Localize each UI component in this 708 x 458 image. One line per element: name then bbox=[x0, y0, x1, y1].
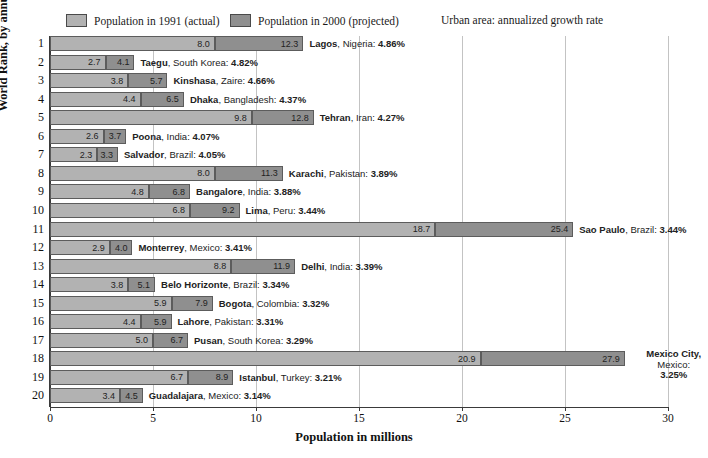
city-label: Lahore, Pakistan: 3.31% bbox=[178, 314, 284, 329]
x-tick-5 bbox=[153, 407, 154, 411]
growth-rate: 3.34% bbox=[262, 279, 289, 290]
population-growth-bar-chart: Population in 1991 (actual) Population i… bbox=[0, 0, 708, 458]
bar-value-2000: 3.7 bbox=[109, 132, 122, 141]
bar-row: 20.927.9 bbox=[50, 351, 625, 366]
rank-label: 11 bbox=[22, 222, 44, 237]
growth-rate: 3.44% bbox=[298, 205, 325, 216]
bar-value-2000: 8.9 bbox=[216, 373, 229, 382]
city-name: Sao Paulo bbox=[579, 224, 625, 235]
city-country: , Mexico: bbox=[203, 390, 244, 401]
city-label: Salvador, Brazil: 4.05% bbox=[124, 147, 225, 162]
x-tick-30 bbox=[668, 407, 669, 411]
bar-segment-2000: 3.7 bbox=[104, 129, 127, 144]
city-country: , South Korea: bbox=[223, 335, 286, 346]
growth-rate: 4.27% bbox=[378, 112, 405, 123]
bar-segment-1991: 4.8 bbox=[50, 184, 149, 199]
y-axis-title: World Rank, by annualized growth rate bbox=[0, 0, 11, 120]
rank-label: 6 bbox=[22, 129, 44, 144]
bar-value-2000: 9.2 bbox=[222, 206, 235, 215]
city-country: , Peru: bbox=[268, 205, 299, 216]
bar-segment-2000: 4.1 bbox=[106, 55, 135, 70]
growth-rate: 4.82% bbox=[231, 57, 258, 68]
bar-segment-2000: 7.9 bbox=[172, 296, 213, 311]
city-country: , Brazil: bbox=[228, 279, 262, 290]
x-tick-0 bbox=[50, 407, 51, 411]
bar-value-2000: 27.9 bbox=[602, 354, 620, 363]
bar-segment-2000: 4.5 bbox=[120, 388, 143, 403]
city-label: Lima, Peru: 3.44% bbox=[246, 203, 326, 218]
city-name: Poona bbox=[132, 131, 161, 142]
x-tick-label-30: 30 bbox=[662, 412, 674, 424]
x-tick-label-10: 10 bbox=[250, 412, 262, 424]
bar-value-2000: 12.8 bbox=[291, 113, 309, 122]
bar-value-1991: 3.4 bbox=[103, 391, 116, 400]
bar-value-2000: 5.7 bbox=[150, 76, 163, 85]
city-label: Mexico City,Mexico:3.25% bbox=[631, 349, 708, 381]
bar-segment-1991: 3.4 bbox=[50, 388, 120, 403]
bar-value-1991: 2.3 bbox=[80, 150, 93, 159]
bar-value-2000: 11.9 bbox=[273, 262, 290, 271]
bar-value-2000: 6.5 bbox=[166, 95, 179, 104]
bar-segment-1991: 2.9 bbox=[50, 240, 110, 255]
rank-label: 20 bbox=[22, 388, 44, 403]
rank-label: 1 bbox=[22, 36, 44, 51]
bar-segment-1991: 5.0 bbox=[50, 333, 153, 348]
bar-row: 4.46.5 bbox=[50, 92, 184, 107]
bar-value-1991: 2.7 bbox=[88, 58, 101, 67]
city-country: , Turkey: bbox=[276, 372, 315, 383]
bar-row: 6.89.2 bbox=[50, 203, 240, 218]
city-country: , India: bbox=[243, 186, 274, 197]
bar-segment-1991: 3.8 bbox=[50, 277, 128, 292]
bar-row: 8.811.9 bbox=[50, 259, 295, 274]
rank-label: 2 bbox=[22, 55, 44, 70]
bar-segment-2000: 4.0 bbox=[110, 240, 133, 255]
city-label: Monterrey, Mexico: 3.41% bbox=[138, 240, 252, 255]
x-tick-15 bbox=[359, 407, 360, 411]
rank-label: 18 bbox=[22, 351, 44, 366]
x-tick-label-5: 5 bbox=[150, 412, 156, 424]
bar-value-2000: 12.3 bbox=[281, 39, 299, 48]
bar-segment-1991: 8.8 bbox=[50, 259, 231, 274]
bar-segment-1991: 2.6 bbox=[50, 129, 104, 144]
growth-rate: 3.32% bbox=[302, 298, 329, 309]
bar-value-2000: 5.1 bbox=[138, 280, 151, 289]
city-name: Kinshasa bbox=[173, 75, 215, 86]
city-label: Poona, India: 4.07% bbox=[132, 129, 219, 144]
bar-segment-2000: 25.4 bbox=[435, 222, 573, 237]
rank-label: 16 bbox=[22, 314, 44, 329]
bar-value-2000: 4.0 bbox=[115, 243, 128, 252]
growth-rate: 3.25% bbox=[660, 369, 687, 380]
growth-rate: 3.88% bbox=[274, 186, 301, 197]
city-name: Istanbul bbox=[239, 372, 275, 383]
bar-segment-1991: 4.4 bbox=[50, 92, 141, 107]
x-tick-label-15: 15 bbox=[353, 412, 365, 424]
bar-value-1991: 3.8 bbox=[111, 76, 124, 85]
city-name: Guadalajara bbox=[149, 390, 203, 401]
rank-label: 5 bbox=[22, 110, 44, 125]
bar-segment-1991: 6.8 bbox=[50, 203, 190, 218]
city-country: , India: bbox=[161, 131, 192, 142]
bar-segment-2000: 11.9 bbox=[231, 259, 295, 274]
bar-value-2000: 11.3 bbox=[261, 169, 278, 178]
bar-value-1991: 2.9 bbox=[92, 243, 105, 252]
city-label: Karachi, Pakistan: 3.89% bbox=[289, 166, 398, 181]
rank-label: 19 bbox=[22, 370, 44, 385]
legend-item-2000: Population in 2000 (projected) bbox=[230, 14, 399, 27]
bar-value-2000: 3.3 bbox=[100, 150, 113, 159]
city-country: , Pakistan: bbox=[324, 168, 371, 179]
x-axis-title: Population in millions bbox=[0, 430, 708, 445]
bar-value-2000: 5.9 bbox=[154, 317, 167, 326]
rank-label: 3 bbox=[22, 73, 44, 88]
bar-value-1991: 20.9 bbox=[458, 354, 476, 363]
bar-segment-1991: 18.7 bbox=[50, 222, 435, 237]
growth-rate: 3.14% bbox=[244, 390, 271, 401]
city-label: Tehran, Iran: 4.27% bbox=[320, 110, 405, 125]
city-country: , Brazil: bbox=[625, 224, 659, 235]
city-label: Kinshasa, Zaire: 4.66% bbox=[173, 73, 274, 88]
bar-segment-2000: 3.3 bbox=[97, 147, 118, 162]
bar-segment-2000: 11.3 bbox=[215, 166, 283, 181]
bar-value-1991: 18.7 bbox=[413, 225, 431, 234]
bar-row: 5.06.7 bbox=[50, 333, 188, 348]
growth-rate: 3.39% bbox=[356, 261, 383, 272]
city-name: Mexico City, bbox=[646, 348, 701, 359]
